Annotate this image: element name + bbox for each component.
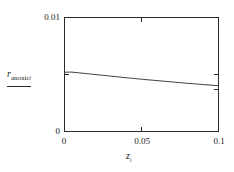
- x-axis-title-subscript: i: [130, 157, 132, 163]
- x-tick-mid-top: [141, 17, 142, 22]
- data-series-line: [64, 72, 219, 86]
- y-axis-max-tick-label: 0.01: [33, 12, 60, 22]
- chart-figure: 0.01 0 0 0.05 0.1 ranoxici zi: [0, 0, 234, 172]
- y-axis-title-subscript: anoxic: [11, 74, 30, 82]
- y-tick-mid-right: [214, 74, 219, 75]
- y-tick-mid-left: [64, 74, 69, 75]
- y-tick-lower-right: [214, 89, 219, 90]
- y-axis-title: ranoxici: [7, 68, 31, 87]
- y-axis-title-subsubscript: i: [30, 75, 32, 81]
- x-axis-tick-label-0: 0: [56, 136, 72, 146]
- x-tick-mid-bottom: [141, 127, 142, 132]
- x-axis-tick-label-max: 0.1: [206, 136, 232, 146]
- y-axis-min-tick-label: 0: [46, 126, 60, 136]
- data-curve-layer: [64, 17, 219, 132]
- x-axis-tick-label-mid: 0.05: [127, 136, 157, 146]
- x-axis-title: zi: [126, 150, 131, 166]
